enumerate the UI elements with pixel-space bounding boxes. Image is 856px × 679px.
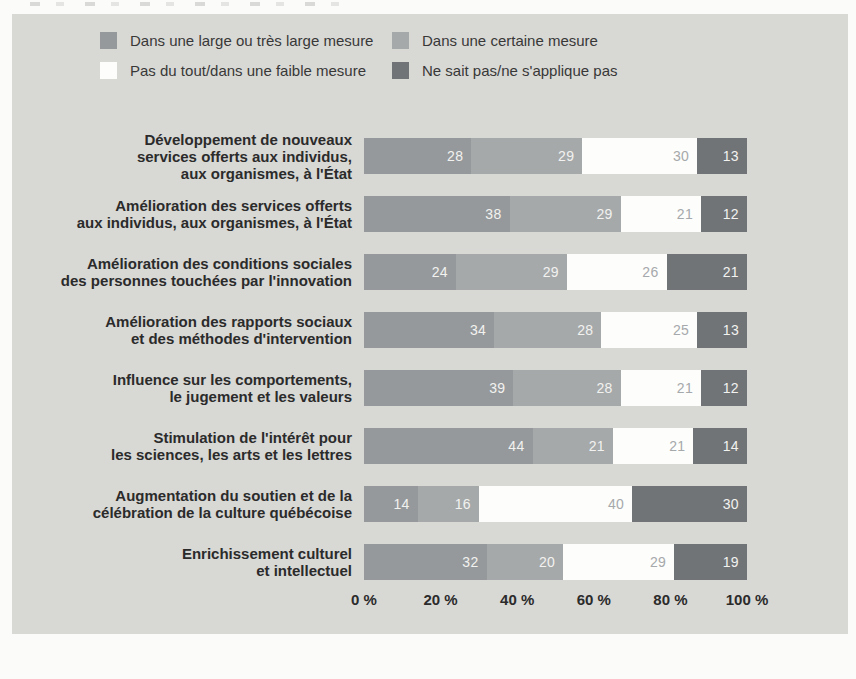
bar-segment: 14 [364,486,418,522]
segment-value-label: 29 [558,148,574,164]
segment-value-label: 13 [723,148,739,164]
legend-label: Dans une certaine mesure [422,32,598,49]
bar-segment: 28 [513,370,620,406]
stacked-bar: 38292112 [364,196,747,232]
cropped-text-artifact [30,2,360,6]
chart-row: Amélioration des conditions socialesdes … [12,243,848,301]
bar-segment: 38 [364,196,510,232]
bar-segment: 16 [418,486,479,522]
bar-segment: 28 [494,312,601,348]
segment-value-label: 26 [642,264,658,280]
segment-value-label: 29 [543,264,559,280]
bar-segment: 12 [701,370,747,406]
segment-value-label: 32 [462,554,478,570]
x-axis-tick: 20 % [423,591,457,608]
segment-value-label: 21 [669,438,685,454]
chart-row: Enrichissement culturelet intellectuel32… [12,533,848,591]
bar-segment: 34 [364,312,494,348]
segment-value-label: 30 [673,148,689,164]
bar-segment: 21 [613,428,693,464]
segment-value-label: 40 [608,496,624,512]
legend-label: Pas du tout/dans une faible mesure [130,62,366,79]
category-label: Amélioration des conditions socialesdes … [12,255,364,289]
segment-value-label: 14 [723,438,739,454]
category-label: Amélioration des services offertsaux ind… [12,197,364,231]
stacked-bar: 24292621 [364,254,747,290]
segment-value-label: 38 [485,206,501,222]
bar-segment: 44 [364,428,533,464]
x-axis-tick: 80 % [653,591,687,608]
chart-row: Influence sur les comportements,le jugem… [12,359,848,417]
bar-segment: 19 [674,544,747,580]
faible-mesure-swatch-icon [100,62,117,79]
legend-column-right: Dans une certaine mesureNe sait pas/ne s… [392,32,618,79]
bar-segment: 30 [582,138,697,174]
category-label: Stimulation de l'intérêt pourles science… [12,429,364,463]
bar-segment: 29 [510,196,621,232]
segment-value-label: 20 [539,554,555,570]
legend-item-large-mesure: Dans une large ou très large mesure [100,32,373,49]
bar-segment: 29 [456,254,567,290]
bar-segment: 21 [621,196,701,232]
bar-segment: 29 [563,544,674,580]
x-axis-tick: 0 % [351,591,377,608]
segment-value-label: 34 [470,322,486,338]
legend-column-left: Dans une large ou très large mesurePas d… [100,32,373,79]
legend-label: Dans une large ou très large mesure [130,32,373,49]
segment-value-label: 28 [447,148,463,164]
legend-label: Ne sait pas/ne s'applique pas [422,62,618,79]
bar-segment: 20 [487,544,564,580]
legend-item-certaine-mesure: Dans une certaine mesure [392,32,618,49]
bar-segment: 13 [697,138,747,174]
legend-item-ne-sait-pas: Ne sait pas/ne s'applique pas [392,62,618,79]
segment-value-label: 28 [596,380,612,396]
bar-segment: 40 [479,486,632,522]
bar-segment: 28 [364,138,471,174]
segment-value-label: 29 [596,206,612,222]
bar-segment: 21 [621,370,701,406]
category-label: Développement de nouveauxservices offert… [12,131,364,182]
certaine-mesure-swatch-icon [392,32,409,49]
segment-value-label: 44 [508,438,524,454]
bar-segment: 26 [567,254,667,290]
x-axis-tick: 40 % [500,591,534,608]
bar-segment: 12 [701,196,747,232]
legend-item-faible-mesure: Pas du tout/dans une faible mesure [100,62,373,79]
segment-value-label: 14 [393,496,409,512]
stacked-bar: 14164030 [364,486,747,522]
bar-segment: 30 [632,486,747,522]
segment-value-label: 19 [723,554,739,570]
category-label: Augmentation du soutien et de lacélébrat… [12,487,364,521]
segment-value-label: 16 [455,496,471,512]
bar-segment: 21 [667,254,747,290]
category-label: Enrichissement culturelet intellectuel [12,545,364,579]
chart-row: Stimulation de l'intérêt pourles science… [12,417,848,475]
segment-value-label: 12 [723,380,739,396]
category-label: Amélioration des rapports sociauxet des … [12,313,364,347]
chart-row: Développement de nouveauxservices offert… [12,127,848,185]
stacked-bar: 44212114 [364,428,747,464]
x-axis-tick: 100 % [726,591,769,608]
segment-value-label: 21 [589,438,605,454]
segment-value-label: 12 [723,206,739,222]
x-axis-tick: 60 % [577,591,611,608]
chart-rows: Développement de nouveauxservices offert… [12,127,848,591]
bar-segment: 14 [693,428,747,464]
segment-value-label: 21 [677,206,693,222]
segment-value-label: 29 [650,554,666,570]
segment-value-label: 30 [723,496,739,512]
bar-segment: 24 [364,254,456,290]
segment-value-label: 13 [723,322,739,338]
stacked-bar: 32202919 [364,544,747,580]
stacked-bar: 34282513 [364,312,747,348]
segment-value-label: 21 [677,380,693,396]
large-mesure-swatch-icon [100,32,117,49]
chart-row: Amélioration des services offertsaux ind… [12,185,848,243]
bar-segment: 32 [364,544,487,580]
bar-segment: 29 [471,138,582,174]
segment-value-label: 39 [489,380,505,396]
bar-segment: 25 [601,312,697,348]
bar-segment: 39 [364,370,513,406]
segment-value-label: 25 [673,322,689,338]
stacked-bar: 28293013 [364,138,747,174]
